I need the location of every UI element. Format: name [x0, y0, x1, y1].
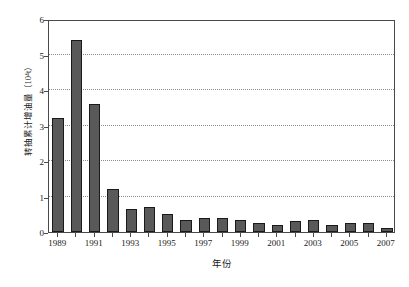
- bar: [107, 189, 118, 232]
- bar: [290, 221, 301, 232]
- x-tick-mark: [203, 233, 204, 237]
- bar: [363, 223, 374, 232]
- bar: [52, 118, 63, 232]
- x-axis-title: 年份: [48, 259, 395, 270]
- x-tick-mark: [185, 233, 186, 237]
- x-tick-mark: [130, 233, 131, 237]
- bars-layer: [49, 21, 394, 232]
- bar: [180, 220, 191, 232]
- x-tick-mark: [94, 233, 95, 237]
- x-tick-mark: [75, 233, 76, 237]
- bar: [381, 228, 392, 232]
- x-tick-mark: [368, 233, 369, 237]
- bar: [235, 220, 246, 232]
- x-tick-mark: [331, 233, 332, 237]
- bar: [272, 225, 283, 232]
- bar: [326, 225, 337, 232]
- bar: [126, 209, 137, 232]
- bar: [217, 218, 228, 232]
- y-axis-title: 转抽累计增油量（10⁴t）: [23, 34, 33, 184]
- x-tick-mark: [57, 233, 58, 237]
- bar: [144, 207, 155, 232]
- x-tick-label: 1997: [183, 238, 223, 248]
- y-axis: 0123456: [0, 20, 44, 233]
- x-tick-mark: [167, 233, 168, 237]
- x-tick-label: 1989: [37, 238, 77, 248]
- y-tick-label: 1: [4, 193, 44, 202]
- y-tick-label: 0: [4, 229, 44, 238]
- bar: [308, 220, 319, 232]
- x-tick-mark: [258, 233, 259, 237]
- x-tick-label: 2001: [256, 238, 296, 248]
- x-tick-label: 2005: [329, 238, 369, 248]
- x-tick-label: 1995: [147, 238, 187, 248]
- bar: [162, 214, 173, 232]
- bar: [89, 104, 100, 232]
- x-tick-label: 2003: [293, 238, 333, 248]
- x-tick-mark: [148, 233, 149, 237]
- bar: [199, 218, 210, 232]
- x-tick-mark: [295, 233, 296, 237]
- x-axis: 1989199119931995199719992001200320052007: [48, 233, 395, 257]
- x-tick-label: 2007: [366, 238, 406, 248]
- x-tick-mark: [386, 233, 387, 237]
- bar: [345, 223, 356, 232]
- x-tick-mark: [349, 233, 350, 237]
- x-tick-mark: [276, 233, 277, 237]
- x-tick-label: 1999: [220, 238, 260, 248]
- x-tick-mark: [313, 233, 314, 237]
- bar: [71, 40, 82, 232]
- bar: [253, 223, 264, 232]
- plot-area: [48, 20, 395, 233]
- x-tick-label: 1991: [74, 238, 114, 248]
- x-tick-label: 1993: [110, 238, 150, 248]
- bar-chart: 0123456 19891991199319951997199920012003…: [0, 0, 409, 287]
- x-tick-mark: [222, 233, 223, 237]
- x-tick-mark: [240, 233, 241, 237]
- y-tick-label: 6: [4, 16, 44, 25]
- x-tick-mark: [112, 233, 113, 237]
